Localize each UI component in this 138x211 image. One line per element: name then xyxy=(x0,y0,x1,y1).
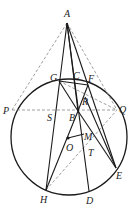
label-t: T xyxy=(88,147,95,158)
center-dot xyxy=(66,136,69,139)
point-labels: AGCFRPQSBOMTHDE xyxy=(2,8,127,206)
label-s: S xyxy=(47,112,52,123)
label-g: G xyxy=(50,72,57,83)
label-p: P xyxy=(2,105,9,116)
dashed-lines xyxy=(12,23,117,190)
dashed-segment-HQ xyxy=(46,110,117,190)
label-h: H xyxy=(39,194,48,205)
label-m: M xyxy=(83,131,93,142)
label-o: O xyxy=(66,142,73,153)
label-a: A xyxy=(63,8,71,19)
segment-GF xyxy=(59,81,88,85)
label-b: B xyxy=(69,112,75,123)
dashed-segment-AP xyxy=(12,23,67,110)
segment-AB xyxy=(67,23,78,111)
label-r: R xyxy=(81,96,88,107)
solid-lines xyxy=(46,23,116,191)
label-q: Q xyxy=(119,104,127,115)
geometry-diagram: AGCFRPQSBOMTHDE xyxy=(0,0,138,211)
label-e: E xyxy=(115,170,122,181)
label-c: C xyxy=(73,70,80,81)
geometry-figure: AGCFRPQSBOMTHDE xyxy=(0,0,138,211)
label-f: F xyxy=(87,73,95,84)
point-o-dot xyxy=(66,136,69,139)
label-d: D xyxy=(85,195,94,206)
